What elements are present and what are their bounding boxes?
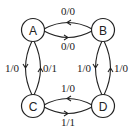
state-b: B xyxy=(92,19,115,42)
state-d-label: D xyxy=(99,100,108,114)
edge-c-to-d xyxy=(44,107,92,116)
state-c: C xyxy=(22,95,45,118)
label-c-to-a: 0/1 xyxy=(43,62,57,74)
state-c-label: C xyxy=(29,100,38,114)
diagram-svg: A B C D 0/0 0/0 1/0 0/1 1/0 1/0 1/0 1/1 xyxy=(0,0,139,132)
label-a-to-b: 0/0 xyxy=(61,40,76,52)
label-c-to-d: 1/1 xyxy=(61,116,75,128)
label-d-to-b: 1/0 xyxy=(114,62,129,74)
label-d-to-c: 1/0 xyxy=(61,82,76,94)
edge-b-to-a xyxy=(44,20,92,29)
edge-c-to-a xyxy=(34,41,43,95)
edge-d-to-c xyxy=(44,96,92,105)
state-diagram: A B C D 0/0 0/0 1/0 0/1 1/0 1/0 1/0 1/1 xyxy=(0,0,139,132)
label-b-to-d: 1/0 xyxy=(77,62,92,74)
edge-a-to-c xyxy=(23,41,32,95)
edge-b-to-d xyxy=(93,41,102,95)
state-a: A xyxy=(22,19,45,42)
state-d: D xyxy=(92,95,115,118)
label-b-to-a: 0/0 xyxy=(61,5,76,17)
label-a-to-c: 1/0 xyxy=(5,62,20,74)
edge-d-to-b xyxy=(104,41,113,95)
state-b-label: B xyxy=(99,24,107,38)
edge-a-to-b xyxy=(44,31,92,40)
state-a-label: A xyxy=(29,24,37,38)
